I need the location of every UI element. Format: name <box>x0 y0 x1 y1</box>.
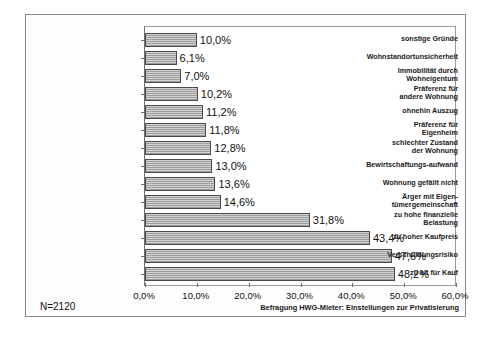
category-label-line: Wohnung gefällt nicht <box>347 179 458 187</box>
category-tick <box>141 76 145 77</box>
category-label-line: ohnehin Auszug <box>347 107 458 115</box>
category-label-line: zu hoher Kaufpreis <box>347 233 458 241</box>
category-tick <box>141 130 145 131</box>
x-axis-tick-label: 30,0% <box>286 290 313 301</box>
category-label: Präferenz fürandere Wohnung <box>347 85 465 102</box>
bar-value-label: 31,8% <box>310 211 344 229</box>
x-axis-tick-label: 40,0% <box>338 290 365 301</box>
category-label: Wohnung gefällt nicht <box>347 179 465 187</box>
category-label: ohnehin Auszug <box>347 107 465 115</box>
bar-value-label: 10,2% <box>198 85 232 103</box>
bar-value-label: 11,2% <box>203 103 236 121</box>
category-label-line: zu alt für Kauf <box>347 269 458 277</box>
bar-value-label: 10,0% <box>197 31 231 49</box>
x-axis-tick-label: 20,0% <box>234 290 261 301</box>
bar <box>145 87 198 101</box>
category-label: zu hoher Kaufpreis <box>347 233 465 241</box>
category-tick <box>141 220 145 221</box>
bar <box>145 69 181 83</box>
category-label: sonstige Gründe <box>347 35 465 43</box>
bar <box>145 33 197 47</box>
bar-value-label: 13,0% <box>212 157 246 175</box>
category-tick <box>141 58 145 59</box>
category-label: Verschuldungsrisiko <box>347 251 465 259</box>
chart-figure: 10,0%6,1%7,0%10,2%11,2%11,8%12,8%13,0%13… <box>25 14 466 317</box>
bar <box>145 105 203 119</box>
category-tick <box>141 112 145 113</box>
bar <box>145 51 177 65</box>
x-axis-tick-label: 50,0% <box>390 290 417 301</box>
bar <box>145 231 370 245</box>
x-axis-tick-label: 60,0% <box>442 290 469 301</box>
category-label: Bewirtschaftungs-aufwand <box>347 161 465 169</box>
bar-value-label: 7,0% <box>181 67 209 85</box>
bar <box>145 159 212 173</box>
category-tick <box>141 166 145 167</box>
category-label-line: Eigenheim <box>347 129 458 137</box>
category-tick <box>141 40 145 41</box>
plot-area: 10,0%6,1%7,0%10,2%11,2%11,8%12,8%13,0%13… <box>144 26 456 286</box>
bar-value-label: 14,6% <box>221 193 255 211</box>
category-tick <box>141 148 145 149</box>
category-tick <box>141 274 145 275</box>
category-label-line: andere Wohnung <box>347 93 458 101</box>
category-label-line: Wohneigentum <box>347 75 458 83</box>
bar <box>145 141 211 155</box>
bar-value-label: 6,1% <box>177 49 205 67</box>
x-axis-tick-label: 0,0% <box>133 290 155 301</box>
category-tick <box>141 238 145 239</box>
category-label: Ärger mit Eigen-tümergemeinschaft <box>347 193 465 210</box>
source-footnote: Befragung HWG-Mieter: Einstellungen zur … <box>260 303 459 312</box>
bar <box>145 195 221 209</box>
category-label-line: Belastung <box>347 219 458 227</box>
category-label: Immobilität durchWohneigentum <box>347 67 465 84</box>
category-label-line: Verschuldungsrisiko <box>347 251 458 259</box>
x-axis-tick <box>456 283 457 287</box>
bar-value-label: 12,8% <box>211 139 245 157</box>
category-label-line: Bewirtschaftungs-aufwand <box>347 161 458 169</box>
bar <box>145 213 310 227</box>
category-label: Wohnstandortunsicherheit <box>347 53 465 61</box>
bar <box>145 123 206 137</box>
sample-size-label: N=2120 <box>40 301 75 312</box>
category-label-line: tümergemeinschaft <box>347 201 458 209</box>
category-tick <box>141 202 145 203</box>
category-label: schlechter Zustandder Wohnung <box>347 139 465 156</box>
bar <box>145 177 215 191</box>
category-label-line: der Wohnung <box>347 147 458 155</box>
category-tick <box>141 256 145 257</box>
bar-value-label: 11,8% <box>206 121 239 139</box>
category-label: zu alt für Kauf <box>347 269 465 277</box>
x-axis-tick-label: 10,0% <box>182 290 209 301</box>
category-tick <box>141 184 145 185</box>
category-tick <box>141 94 145 95</box>
category-label: Präferenz fürEigenheim <box>347 121 465 138</box>
category-label-line: sonstige Gründe <box>347 35 458 43</box>
category-label: zu hohe finanzielleBelastung <box>347 211 465 228</box>
bar-value-label: 13,6% <box>215 175 249 193</box>
category-label-line: Wohnstandortunsicherheit <box>347 53 458 61</box>
